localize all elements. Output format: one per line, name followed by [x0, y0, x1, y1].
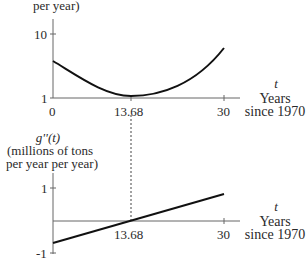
top-ytick-label-10: 10 [34, 27, 47, 42]
top-curve [53, 48, 224, 96]
bottom-x-axis-label-line2: since 1970 [244, 227, 306, 242]
top-xtick-label-mid: 13.68 [114, 104, 143, 119]
top-ytick-label-1: 1 [41, 91, 48, 106]
bottom-xtick-label-mid: 13.68 [114, 227, 143, 242]
bottom-chart [50, 173, 240, 254]
top-y-axis-label: per year) [33, 0, 80, 13]
top-chart [50, 19, 240, 101]
bottom-y-axis-label-line2: per year per year) [6, 156, 94, 171]
top-x-axis-label-line2: since 1970 [244, 104, 306, 119]
top-xtick-label-0: 0 [49, 104, 56, 119]
bottom-ytick-label-m1: -1 [36, 246, 47, 261]
bottom-xtick-label-30: 30 [217, 227, 230, 242]
bottom-ytick-label-1: 1 [41, 181, 48, 196]
top-xtick-label-30: 30 [217, 104, 230, 119]
bottom-x-var-label: t [246, 199, 306, 214]
top-x-var-label: t [246, 76, 306, 91]
